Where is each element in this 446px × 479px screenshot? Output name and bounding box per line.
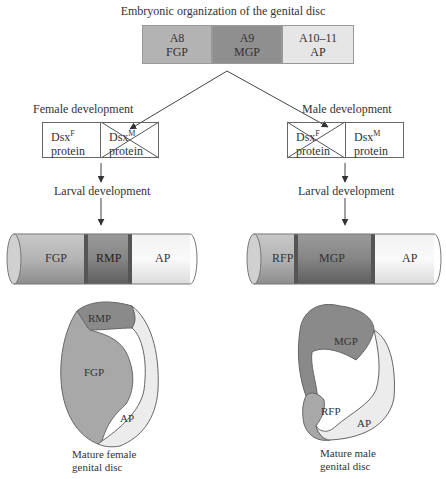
male-disc-caption: Mature malegenital disc: [320, 447, 376, 473]
segment-label: A10–11: [299, 31, 337, 45]
diagram-title: Embryonic organization of the genital di…: [0, 4, 446, 19]
female-disc-rmp: RMP: [88, 312, 111, 325]
segment-a9: A9 MGP: [212, 25, 282, 64]
arrow-to-female: [130, 71, 227, 129]
male-disc-mgp: MGP: [334, 335, 358, 348]
female-dsxf-box: DsxFprotein: [42, 122, 101, 158]
female-heading: Female development: [33, 102, 133, 117]
male-dsxf-box-crossed: DsxFprotein: [287, 122, 346, 158]
male-cyl-rfp: RFP: [272, 251, 293, 266]
female-cyl-fgp: FGP: [45, 251, 67, 266]
female-larval-label: Larval development: [54, 184, 150, 199]
primordium-label: AP: [310, 45, 325, 59]
segment-a8: A8 FGP: [142, 25, 212, 64]
male-disc: [298, 304, 394, 440]
female-disc-fgp: FGP: [84, 366, 104, 379]
primordium-label: FGP: [166, 45, 188, 59]
female-cyl-rmp: RMP: [96, 251, 121, 266]
male-larval-label: Larval development: [298, 184, 394, 199]
male-dsxm-box: DsxMprotein: [345, 122, 404, 158]
female-disc-ap: AP: [120, 412, 134, 425]
male-cyl-ap: AP: [402, 251, 417, 266]
female-disc-caption: Mature femalegenital disc: [72, 448, 136, 474]
male-heading: Male development: [302, 102, 392, 117]
male-disc-rfp: RFP: [321, 405, 341, 418]
segment-label: A8: [170, 31, 185, 45]
primordium-label: MGP: [234, 45, 260, 59]
male-disc-ap: AP: [357, 417, 371, 430]
segment-a10-11: A10–11 AP: [282, 25, 354, 64]
female-cyl-ap: AP: [155, 251, 170, 266]
arrow-to-male: [227, 71, 328, 127]
segment-label: A9: [240, 31, 255, 45]
male-cyl-mgp: MGP: [319, 251, 345, 266]
diagram-graphics: [0, 0, 446, 479]
female-dsxm-box-crossed: DsxMprotein: [100, 122, 159, 158]
